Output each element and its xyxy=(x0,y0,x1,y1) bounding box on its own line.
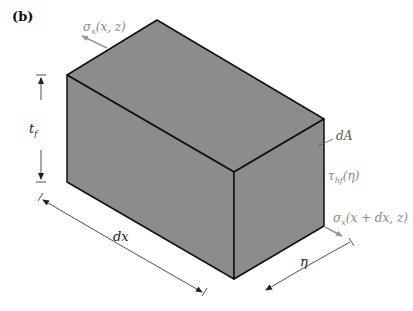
panel-label: (b) xyxy=(12,9,33,24)
tau-label: τhf(η) xyxy=(328,169,360,185)
sigma-top-label: σx(x, z) xyxy=(83,20,126,36)
tf-label: tf xyxy=(29,121,39,138)
sigma-top-arrow-icon xyxy=(82,36,107,48)
eta-label: η xyxy=(300,254,308,269)
sigma-bottom-arrow-icon xyxy=(325,227,342,236)
box xyxy=(67,20,324,279)
stress-element-diagram: (b) σx(x, z) dA τhf(η) σx(x + dx, z) tf … xyxy=(0,0,413,311)
dA-label: dA xyxy=(336,129,353,143)
sigma-bottom-label: σx(x + dx, z) xyxy=(333,211,408,227)
dx-label: dx xyxy=(113,229,129,244)
tf-dimension xyxy=(36,75,46,182)
